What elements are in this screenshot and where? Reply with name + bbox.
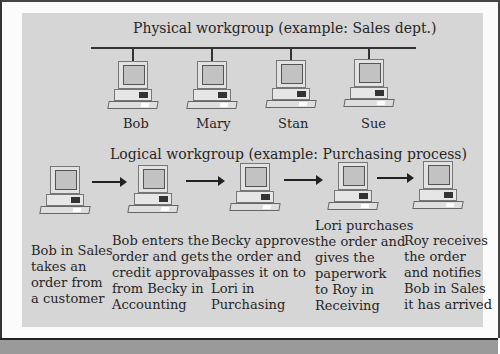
arrow-right-icon — [377, 177, 409, 179]
arrow-right-icon — [186, 180, 220, 182]
computer-icon — [108, 61, 160, 111]
member-name: Stan — [278, 116, 308, 131]
member-name: Sue — [361, 116, 386, 131]
logical-workgroup-title: Logical workgroup (example: Purchasing p… — [110, 146, 467, 162]
computer-icon — [344, 59, 396, 109]
network-drop-line — [211, 48, 213, 62]
process-step-text: Roy receives the order and notifies Bob … — [404, 233, 492, 313]
process-step-text: Becky approves the order and passes it o… — [211, 233, 315, 313]
computer-icon — [413, 161, 465, 211]
member-name: Mary — [196, 116, 231, 131]
computer-icon — [187, 61, 239, 111]
process-step-text: Lori purchases the order and gives the p… — [315, 218, 413, 314]
computer-icon — [128, 165, 180, 215]
computer-icon — [266, 60, 318, 110]
physical-workgroup-title: Physical workgroup (example: Sales dept.… — [133, 20, 436, 36]
arrow-right-icon — [284, 179, 318, 181]
network-drop-line — [132, 48, 134, 62]
caption-strip — [0, 338, 498, 354]
member-name: Bob — [123, 116, 149, 131]
computer-icon — [328, 162, 380, 212]
computer-icon — [40, 166, 92, 216]
process-step-text: Bob in Sales takes an order from a custo… — [31, 243, 113, 307]
arrow-right-icon — [92, 181, 122, 183]
process-step-text: Bob enters the order and gets credit app… — [112, 233, 213, 313]
computer-icon — [230, 163, 282, 213]
